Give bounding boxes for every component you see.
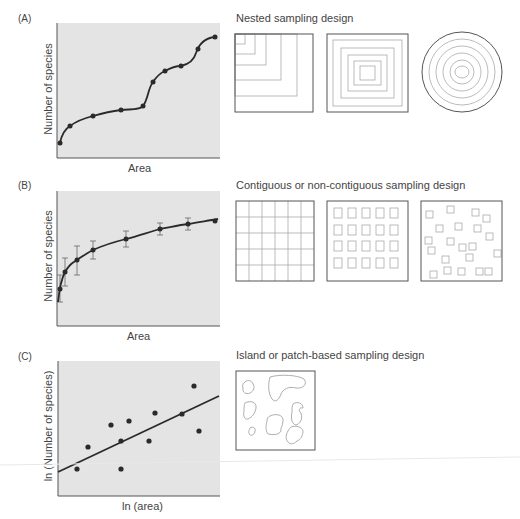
- plot-a: [57, 23, 220, 158]
- nested-corner-squares: [235, 34, 313, 112]
- plot-c: [58, 361, 220, 496]
- nested-concentric-squares: [327, 34, 408, 112]
- figure-canvas: [0, 0, 520, 519]
- nested-concentric-circles: [422, 32, 502, 112]
- island-patches: [236, 371, 315, 450]
- random-quadrats: [421, 201, 502, 281]
- contiguous-grid: [236, 201, 314, 281]
- plot-b: [57, 191, 220, 326]
- systematic-quadrats: [327, 201, 408, 281]
